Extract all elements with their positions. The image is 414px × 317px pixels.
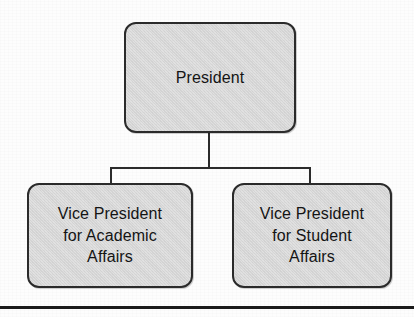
- org-node-vp-student-affairs[interactable]: Vice President for Student Affairs: [232, 183, 392, 288]
- connector-president-stem: [208, 133, 210, 169]
- org-node-vp-academic-affairs[interactable]: Vice President for Academic Affairs: [27, 183, 193, 288]
- org-node-vp-student-affairs-label: Vice President for Student Affairs: [254, 203, 370, 268]
- org-node-president-label: President: [170, 67, 251, 89]
- connector-drop-vp-student: [309, 167, 311, 184]
- connector-horizontal-bar: [110, 167, 311, 169]
- org-chart-page: President Vice President for Academic Af…: [0, 0, 414, 317]
- page-bottom-rule: [0, 306, 414, 309]
- connector-drop-vp-academic: [110, 167, 112, 184]
- org-node-president[interactable]: President: [124, 22, 296, 133]
- org-node-vp-academic-affairs-label: Vice President for Academic Affairs: [52, 203, 168, 268]
